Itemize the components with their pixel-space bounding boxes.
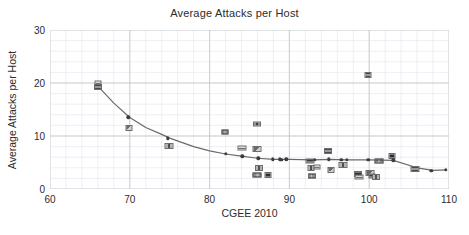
x-tick-label-90: 90 bbox=[284, 194, 295, 205]
flag-marker-icon bbox=[365, 72, 372, 78]
chart-screenshot: Average Attacks per Host Average Attacks… bbox=[0, 0, 469, 235]
flag-marker-icon bbox=[372, 174, 380, 180]
y-tick-label-10: 10 bbox=[34, 131, 45, 142]
x-tick-label-110: 110 bbox=[441, 194, 457, 205]
flag-marker-icon bbox=[313, 164, 320, 169]
flag-marker-icon bbox=[264, 172, 271, 178]
y-tick-label-30: 30 bbox=[34, 25, 45, 36]
fit-curve bbox=[50, 30, 449, 189]
flag-marker-icon bbox=[253, 173, 262, 178]
flag-marker-icon bbox=[253, 122, 261, 127]
flag-marker-icon bbox=[308, 174, 316, 179]
flag-marker-icon bbox=[253, 146, 262, 152]
y-axis-title-text: Average Attacks per Host bbox=[6, 50, 18, 168]
flag-marker-icon bbox=[324, 148, 332, 154]
flag-marker-icon bbox=[374, 159, 383, 164]
x-axis-title: CGEE 2010 bbox=[50, 207, 449, 219]
y-axis-title: Average Attacks per Host bbox=[5, 30, 19, 189]
plot-area: 010203060708090100110 bbox=[50, 30, 449, 189]
flag-marker-icon bbox=[126, 125, 133, 131]
flag-marker-icon bbox=[164, 143, 173, 149]
flag-marker-detail bbox=[224, 130, 225, 133]
flag-marker-icon bbox=[327, 167, 334, 173]
y-tick-label-0: 0 bbox=[39, 184, 45, 195]
flag-marker-icon bbox=[354, 174, 363, 179]
x-tick-label-100: 100 bbox=[361, 194, 378, 205]
flag-marker-icon bbox=[338, 162, 347, 168]
x-tick-label-70: 70 bbox=[124, 194, 135, 205]
flag-marker-icon bbox=[411, 166, 420, 172]
flag-marker-icon bbox=[237, 146, 246, 151]
flag-marker-detail bbox=[378, 160, 380, 163]
x-tick-label-80: 80 bbox=[204, 194, 215, 205]
y-tick-label-20: 20 bbox=[34, 78, 45, 89]
flag-marker-icon bbox=[255, 165, 263, 171]
flag-marker-icon bbox=[221, 129, 228, 134]
x-tick-label-60: 60 bbox=[44, 194, 55, 205]
chart-title: Average Attacks per Host bbox=[0, 7, 469, 19]
flag-marker-detail bbox=[257, 174, 259, 177]
flag-marker-detail bbox=[311, 175, 312, 178]
flag-marker-icon bbox=[94, 84, 102, 90]
